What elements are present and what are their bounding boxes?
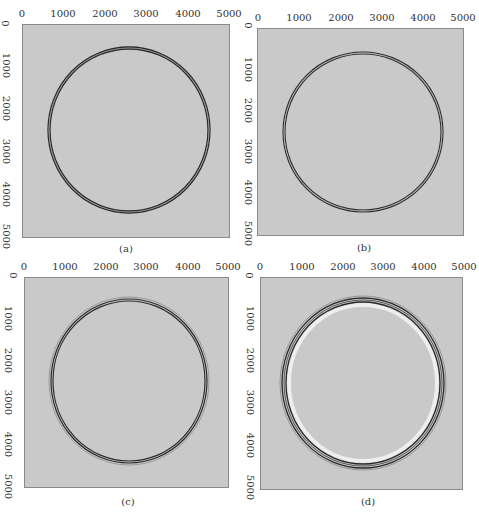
- x-tick: 3000: [369, 12, 394, 23]
- x-tick: 4000: [175, 261, 200, 272]
- y-tick: 2000: [3, 348, 14, 373]
- x-tick: 0: [255, 12, 261, 23]
- x-tick: 4000: [175, 8, 200, 19]
- y-tick: 3000: [3, 390, 14, 415]
- x-tick: 0: [257, 261, 263, 272]
- x-tick: 3000: [133, 8, 158, 19]
- caption-a: (a): [119, 243, 133, 254]
- x-tick: 4000: [411, 261, 436, 272]
- y-tick: 0: [8, 272, 19, 278]
- x-tick: 1000: [286, 12, 311, 23]
- x-tick: 5000: [451, 261, 476, 272]
- y-tick: 1000: [3, 306, 14, 331]
- y-tick: 0: [244, 272, 255, 278]
- x-tick: 2000: [328, 12, 353, 23]
- plot-area-d: [260, 277, 463, 490]
- x-tick: 5000: [450, 12, 475, 23]
- x-tick: 2000: [330, 261, 355, 272]
- y-tick: 4000: [1, 182, 12, 207]
- x-tick: 0: [19, 8, 25, 19]
- y-tick: 5000: [243, 221, 254, 246]
- y-tick: 0: [243, 22, 254, 28]
- x-tick: 3000: [133, 261, 158, 272]
- ring-c: [25, 278, 229, 488]
- plot-area-c: [24, 277, 229, 488]
- caption-d: (d): [361, 496, 375, 507]
- y-tick: 0: [0, 20, 11, 26]
- y-tick: 4000: [243, 180, 254, 205]
- x-tick: 1000: [289, 261, 314, 272]
- y-tick: 3000: [245, 390, 256, 415]
- ring-b: [258, 29, 464, 236]
- y-tick: 5000: [245, 475, 256, 500]
- x-tick: 5000: [216, 8, 241, 19]
- ring-a: [23, 25, 230, 238]
- plot-area-a: [22, 24, 230, 238]
- y-tick: 3000: [1, 139, 12, 164]
- y-tick: 1000: [245, 306, 256, 331]
- x-tick: 3000: [370, 261, 395, 272]
- y-tick: 2000: [243, 98, 254, 123]
- y-tick: 1000: [1, 53, 12, 78]
- x-tick: 2000: [92, 8, 117, 19]
- plot-area-b: [257, 28, 464, 236]
- x-tick: 1000: [50, 8, 75, 19]
- x-tick: 1000: [52, 261, 77, 272]
- caption-c: (c): [121, 496, 134, 507]
- y-tick: 5000: [3, 474, 14, 499]
- y-tick: 1000: [243, 57, 254, 82]
- x-tick: 2000: [93, 261, 118, 272]
- y-tick: 4000: [3, 432, 14, 457]
- ring-d: [261, 278, 463, 490]
- x-tick: 0: [21, 261, 27, 272]
- x-tick: 5000: [215, 261, 240, 272]
- y-tick: 2000: [245, 348, 256, 373]
- x-tick: 4000: [410, 12, 435, 23]
- y-tick: 5000: [1, 224, 12, 249]
- y-tick: 4000: [245, 433, 256, 458]
- y-tick: 3000: [243, 139, 254, 164]
- y-tick: 2000: [1, 96, 12, 121]
- caption-b: (b): [357, 242, 371, 253]
